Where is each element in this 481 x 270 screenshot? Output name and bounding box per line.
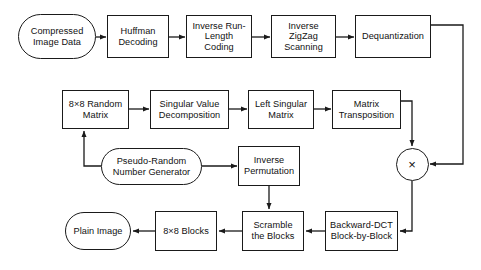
- edge-dequantization-to-multiply: [430, 25, 463, 164]
- node-inverse-zigzag-scanning[interactable]: Inverse ZigZag Scanning: [271, 15, 336, 58]
- flowchart-canvas: Compressed Image Data Huffman Decoding I…: [0, 0, 481, 270]
- node-inverse-run-length-coding[interactable]: Inverse Run- Length Coding: [186, 15, 252, 58]
- node-dequantization[interactable]: Dequantization: [355, 15, 431, 58]
- node-label: Left Singular Matrix: [253, 99, 309, 120]
- node-plain-image[interactable]: Plain Image: [65, 212, 131, 250]
- multiply-operator-icon[interactable]: ×: [396, 148, 429, 181]
- edge-multiply-to-backwarddct: [400, 181, 412, 231]
- node-label: Inverse ZigZag Scanning: [282, 21, 325, 53]
- node-huffman-decoding[interactable]: Huffman Decoding: [107, 15, 169, 58]
- node-label: Scramble the Blocks: [250, 220, 297, 241]
- node-inverse-permutation[interactable]: Inverse Permutation: [238, 146, 300, 186]
- node-label: Pseudo-Random Number Generator: [111, 156, 192, 177]
- multiply-symbol: ×: [408, 157, 416, 172]
- node-pseudo-random-number-generator[interactable]: Pseudo-Random Number Generator: [101, 148, 202, 185]
- node-8x8-blocks[interactable]: 8×8 Blocks: [155, 211, 217, 251]
- node-backward-dct-block-by-block[interactable]: Backward-DCT Block-by-Block: [325, 211, 398, 251]
- edge-prng-to-randommatrix: [84, 131, 101, 166]
- node-label: Inverse Permutation: [242, 155, 296, 176]
- node-label: Dequantization: [360, 31, 426, 42]
- node-label: Matrix Transposition: [337, 99, 396, 120]
- node-singular-value-decomposition[interactable]: Singular Value Decomposition: [150, 90, 229, 129]
- node-matrix-transposition[interactable]: Matrix Transposition: [332, 90, 401, 129]
- node-label: Compressed Image Data: [29, 26, 86, 47]
- node-label: Plain Image: [71, 226, 124, 237]
- node-label: Huffman Decoding: [116, 26, 159, 47]
- node-label: Inverse Run- Length Coding: [190, 21, 247, 53]
- node-label: 8×8 Blocks: [161, 226, 211, 237]
- node-compressed-image-data[interactable]: Compressed Image Data: [18, 14, 96, 59]
- node-label: Singular Value Decomposition: [157, 99, 222, 120]
- node-8x8-random-matrix[interactable]: 8×8 Random Matrix: [62, 90, 129, 129]
- edge-transposition-to-multiply: [401, 101, 412, 146]
- node-label: 8×8 Random Matrix: [67, 99, 124, 120]
- node-left-singular-matrix[interactable]: Left Singular Matrix: [248, 90, 314, 129]
- node-label: Backward-DCT Block-by-Block: [328, 220, 395, 241]
- node-scramble-the-blocks[interactable]: Scramble the Blocks: [242, 211, 304, 251]
